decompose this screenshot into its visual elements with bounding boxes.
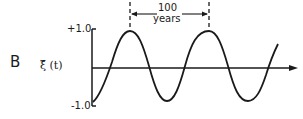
panel-label: B [10,55,20,70]
y-tick-top: +1.0 [67,24,91,34]
y-axis-label: ξ̄ (t) [40,60,63,71]
sine-curve [93,31,278,102]
period-value: 100 [158,3,177,13]
figure-panel-b: B ξ̄ (t) +1.0 -1.0 100 years [0,0,303,119]
x-axis-arrowhead-icon [289,65,298,71]
period-unit: years [153,14,181,24]
y-tick-bottom: -1.0 [71,101,91,111]
